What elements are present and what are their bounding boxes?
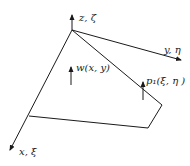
x-axis-arrow [10,30,72,150]
deflection-label: w(x, y) [76,62,110,73]
plate-outline [29,30,162,128]
y-axis-label: y, η [163,44,181,55]
z-axis-label: z, ζ [78,12,97,23]
load-label: p₁(ξ, η ) [146,75,185,86]
plate-diagram: z, ζ y, η x, ξ w(x, y) p₁(ξ, η ) [0,0,190,166]
x-axis-label: x, ξ [19,146,37,157]
